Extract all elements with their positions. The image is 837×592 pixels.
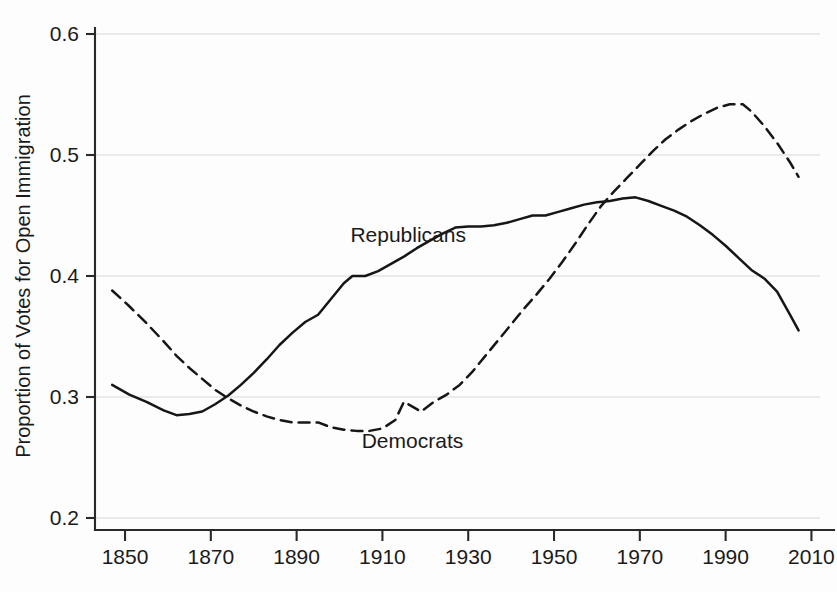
series-label-democrats: Democrats <box>362 429 464 452</box>
x-tick-label-1970: 1970 <box>616 545 663 568</box>
x-tick-label-1890: 1890 <box>273 545 320 568</box>
chart-background <box>0 0 837 592</box>
immigration-votes-chart-figure: 0.20.30.40.50.6 185018701890191019301950… <box>0 0 837 592</box>
x-tick-label-1850: 1850 <box>102 545 149 568</box>
x-tick-label-1870: 1870 <box>187 545 234 568</box>
x-tick-label-1910: 1910 <box>359 545 406 568</box>
y-tick-label-0.4: 0.4 <box>50 264 80 287</box>
y-tick-label-0.6: 0.6 <box>50 22 79 45</box>
y-axis-title-text: Proportion of Votes for Open Immigration <box>12 94 34 458</box>
x-tick-label-1930: 1930 <box>445 545 492 568</box>
x-tick-label-1950: 1950 <box>531 545 578 568</box>
x-tick-label-2010: 2010 <box>788 545 835 568</box>
y-tick-label-0.2: 0.2 <box>50 506 79 529</box>
y-axis-title: Proportion of Votes for Open Immigration <box>12 94 34 458</box>
y-tick-label-0.3: 0.3 <box>50 385 79 408</box>
series-label-republicans: Republicans <box>350 223 466 246</box>
x-tick-label-1990: 1990 <box>702 545 749 568</box>
chart-plot-area: 0.20.30.40.50.6 185018701890191019301950… <box>0 0 837 592</box>
y-tick-label-0.5: 0.5 <box>50 143 79 166</box>
